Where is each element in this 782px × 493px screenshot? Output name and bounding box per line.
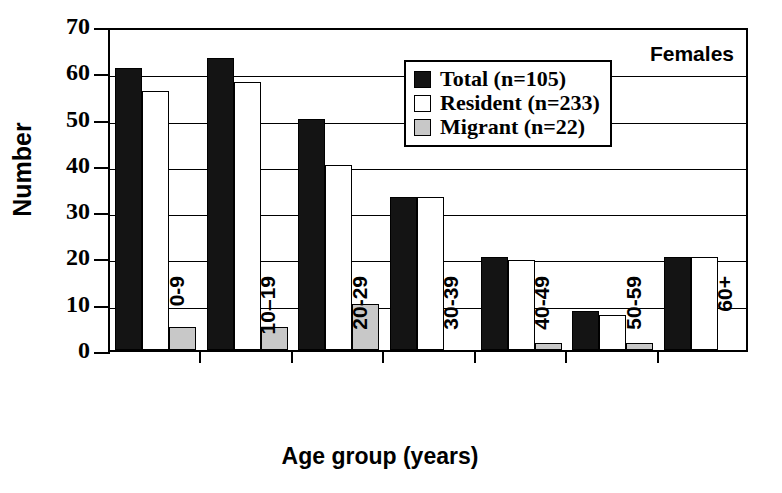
legend-swatch-total-icon (414, 71, 431, 88)
x-category-label: 10–19 (256, 276, 280, 366)
panel-label: Females (650, 42, 734, 66)
x-category-label: 50-59 (622, 276, 646, 366)
legend-item-migrant: Migrant (n=22) (414, 115, 600, 139)
bar-total-5059 (572, 311, 599, 350)
x-tick-mark (657, 352, 659, 363)
bar-total-60 (664, 257, 691, 350)
x-category-label: 30-39 (439, 276, 463, 366)
y-tick-label: 0 (28, 337, 90, 364)
y-tick-label: 20 (28, 244, 90, 271)
legend-swatch-migrant-icon (414, 119, 431, 136)
legend-label: Total (n=105) (440, 68, 566, 90)
y-tick-label: 40 (28, 152, 90, 179)
gridline (110, 169, 746, 170)
x-tick-mark (565, 352, 567, 363)
y-tick-label: 70 (28, 13, 90, 40)
chart-figure: Number 706050403020100 Females 0-910–192… (0, 0, 782, 493)
x-tick-mark (199, 352, 201, 363)
bar-total-2029 (298, 119, 325, 350)
legend-item-total: Total (n=105) (414, 67, 600, 91)
legend-item-resident: Resident (n=233) (414, 91, 600, 115)
bar-total-4049 (481, 257, 508, 350)
legend-swatch-resident-icon (414, 95, 431, 112)
x-tick-mark (382, 352, 384, 363)
bar-total-09 (115, 68, 142, 350)
y-tick-mark (94, 352, 110, 354)
bar-total-3039 (390, 197, 417, 350)
legend-label: Migrant (n=22) (440, 116, 585, 138)
x-tick-mark (474, 352, 476, 363)
x-category-label: 60+ (713, 276, 737, 366)
x-category-label: 0-9 (165, 276, 189, 366)
x-category-label: 20-29 (348, 276, 372, 366)
bar-total-1019 (207, 58, 234, 350)
y-tick-label: 50 (28, 106, 90, 133)
x-tick-mark (291, 352, 293, 363)
x-category-label: 40-49 (530, 276, 554, 366)
chart-legend: Total (n=105)Resident (n=233)Migrant (n=… (404, 60, 612, 147)
legend-label: Resident (n=233) (440, 92, 600, 114)
y-tick-label: 30 (28, 198, 90, 225)
y-tick-label: 10 (28, 291, 90, 318)
x-axis-title: Age group (years) (100, 443, 660, 470)
y-tick-label: 60 (28, 59, 90, 86)
